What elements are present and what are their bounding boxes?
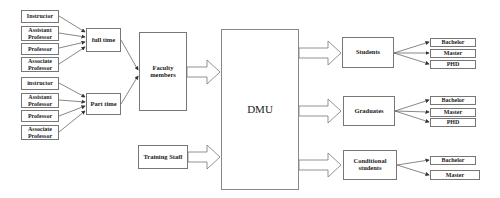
staff-associate-professor-part: Associate Professor [21,125,59,140]
staff-professor-part: Professor [21,110,59,122]
staff-associate-professor-full: Associate Professor [21,57,59,72]
conditional-master: Master [430,170,480,180]
full-time-box: full time [86,28,121,52]
staff-professor-full: Professor [21,43,59,55]
part-time-box: Part time [86,93,121,115]
staff-assistant-professor-part: Assistant Professor [21,93,59,108]
faculty-members-box: Faculty members [139,32,187,111]
staff-assistant-professor-full: Assistant Professor [21,26,59,41]
graduates-box: Graduates [343,96,395,126]
graduates-bachelor: Bachelor [430,96,476,105]
graduates-phd: PHD [430,118,476,127]
staff-instructor-full: Instructor [21,10,59,23]
conditional-students-box: Conditional students [343,150,397,180]
training-staff-box: Training Staff [138,145,188,169]
students-phd: PHD [430,60,476,69]
students-master: Master [430,49,476,58]
students-box: Students [342,37,394,68]
conditional-bachelor: Bachelor [430,156,476,165]
graduates-master: Master [430,108,476,117]
dmu-box: DMU [221,29,299,190]
students-bachelor: Bachelor [430,38,476,47]
staff-instructor-part: instructor [21,77,59,90]
